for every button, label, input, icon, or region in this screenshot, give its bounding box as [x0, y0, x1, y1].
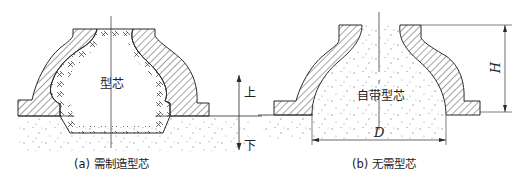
core-label-b: 自带型芯: [357, 86, 405, 103]
figure-a: [18, 16, 262, 152]
diameter-dimension-label: D: [374, 125, 384, 140]
arrow-down-icon: [503, 105, 507, 112]
figure-b: [258, 12, 512, 145]
direction-up-label: 上: [244, 83, 256, 100]
caption-a: (a) 需制造型芯: [74, 155, 149, 171]
arrow-up-icon: [237, 75, 242, 82]
sand-ground-b: [262, 115, 314, 139]
core-label-a: 型芯: [100, 74, 124, 91]
caption-b: (b) 无需型芯: [352, 155, 416, 171]
arrow-up-icon: [503, 25, 507, 32]
height-dimension-label: H: [488, 62, 503, 73]
casting-diagram: [0, 0, 521, 180]
direction-down-label: 下: [244, 136, 256, 153]
